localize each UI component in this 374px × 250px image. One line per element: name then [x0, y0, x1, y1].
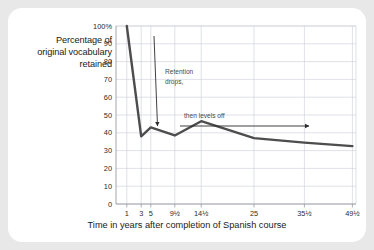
retention-drops-arrow [154, 36, 158, 126]
y-tick-label: 0 [108, 200, 112, 209]
y-tick-label: 90 [104, 39, 112, 48]
x-tick-label: 49½ [345, 209, 359, 218]
x-tick-label: 5 [149, 209, 153, 218]
y-axis-tick-labels: 0102030405060708090100% [93, 22, 112, 209]
y-tick-label: 30 [104, 146, 112, 155]
x-tick-label: 14½ [194, 209, 208, 218]
y-tick-label: 60 [104, 93, 112, 102]
x-tick-label: 25 [250, 209, 258, 218]
annotation-retention-drops-line-2: drops, [165, 78, 183, 86]
horizontal-gridlines [116, 26, 356, 204]
y-tick-label: 40 [104, 128, 112, 137]
y-tick-label: 10 [104, 182, 112, 191]
y-tick-label: 100% [93, 22, 112, 31]
x-tick-label: 9½ [170, 209, 180, 218]
x-axis-title: Time in years after completion of Spanis… [8, 220, 366, 230]
annotation-retention-drops-line-1: Retention [165, 68, 194, 75]
x-tick-label: 1 [125, 209, 129, 218]
y-tick-label: 70 [104, 75, 112, 84]
x-axis-tick-labels: 1359½14½2535½49½ [125, 209, 360, 218]
figure-card: Percentage of original vocabulary retain… [8, 8, 366, 242]
annotation-levels-off: then levels off [184, 112, 225, 119]
x-tick-label: 3 [139, 209, 143, 218]
y-tick-label: 50 [104, 111, 112, 120]
y-tick-label: 20 [104, 164, 112, 173]
x-axis-tick-marks [127, 204, 353, 208]
x-tick-label: 35½ [297, 209, 311, 218]
y-tick-label: 80 [104, 57, 112, 66]
line-chart: 0102030405060708090100% 1359½14½2535½49½… [8, 8, 366, 242]
